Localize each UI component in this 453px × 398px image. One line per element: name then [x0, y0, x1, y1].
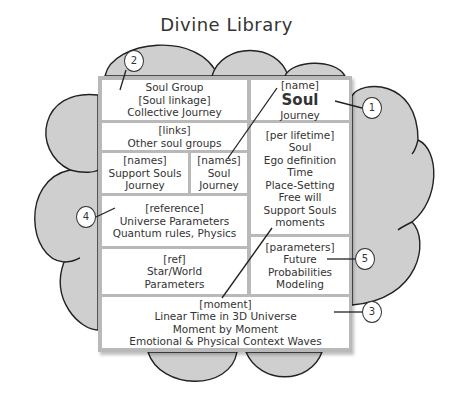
place-setting-label: Place-Setting: [265, 179, 334, 192]
callout-5: 5: [355, 248, 375, 270]
ego-definition-label: Ego definition: [264, 154, 337, 167]
future-label: Future: [283, 253, 316, 266]
soul-name-tag: [name]: [281, 79, 319, 92]
support-souls-label: Support Souls: [264, 204, 337, 217]
reference-tag: [reference]: [145, 202, 203, 215]
parameters-tag: [parameters]: [265, 241, 334, 254]
time-label: Time: [287, 166, 313, 179]
moment-tag: [moment]: [199, 298, 251, 311]
star-world-label: Star/World: [147, 265, 202, 278]
moment-by-moment-label: Moment by Moment: [173, 323, 278, 336]
soul-journey-sub: Journey: [199, 179, 239, 192]
soul-linkage-tag: [Soul linkage]: [138, 94, 210, 107]
per-lifetime-cell: [per lifetime] Soul Ego definition Time …: [251, 123, 349, 234]
modeling-label: Modeling: [276, 278, 324, 291]
callout-4: 4: [76, 206, 96, 228]
support-souls-cell: [names] Support Souls Journey: [102, 153, 188, 193]
callout-1: 1: [362, 97, 382, 119]
support-souls-tag: [names]: [123, 154, 166, 167]
soul-journey-title: Soul: [208, 167, 231, 180]
star-world-parameters: Parameters: [144, 278, 204, 291]
callout-3: 3: [362, 301, 382, 323]
soul-title: Soul: [282, 92, 319, 109]
per-lifetime-tag: [per lifetime]: [266, 129, 335, 142]
callout-2: 2: [124, 50, 144, 72]
linear-time-label: Linear Time in 3D Universe: [154, 310, 296, 323]
soul-group-cell: Soul Group [Soul linkage] Collective Jou…: [102, 80, 247, 120]
probabilities-label: Probabilities: [268, 266, 332, 279]
per-lifetime-soul: Soul: [289, 141, 312, 154]
soul-journey-cell: [names] Soul Journey: [191, 153, 247, 193]
quantum-rules-label: Quantum rules, Physics: [113, 227, 237, 240]
free-will-label: Free will: [279, 191, 322, 204]
reference-cell: [reference] Universe Parameters Quantum …: [102, 196, 247, 246]
soul-group-title: Soul Group: [146, 81, 204, 94]
links-tag: [links]: [158, 124, 190, 137]
star-world-cell: [ref] Star/World Parameters: [102, 249, 247, 294]
context-waves-label: Emotional & Physical Context Waves: [129, 335, 321, 348]
parameters-cell: [parameters] Future Probabilities Modeli…: [251, 237, 349, 294]
soul-journey-tag: [names]: [197, 154, 240, 167]
moments-label: moments: [275, 216, 325, 229]
universe-parameters-label: Universe Parameters: [120, 215, 230, 228]
support-souls-title: Support Souls: [109, 167, 182, 180]
support-souls-journey: Journey: [125, 179, 165, 192]
moment-cell: [moment] Linear Time in 3D Universe Mome…: [102, 297, 349, 348]
ref-tag: [ref]: [163, 253, 185, 266]
soul-cell: [name] Soul Journey: [251, 80, 349, 120]
links-cell: [links] Other soul groups: [102, 123, 247, 150]
other-soul-groups-label: Other soul groups: [128, 137, 222, 150]
collective-journey-label: Collective Journey: [127, 106, 222, 119]
soul-journey-label: Journey: [280, 109, 320, 122]
